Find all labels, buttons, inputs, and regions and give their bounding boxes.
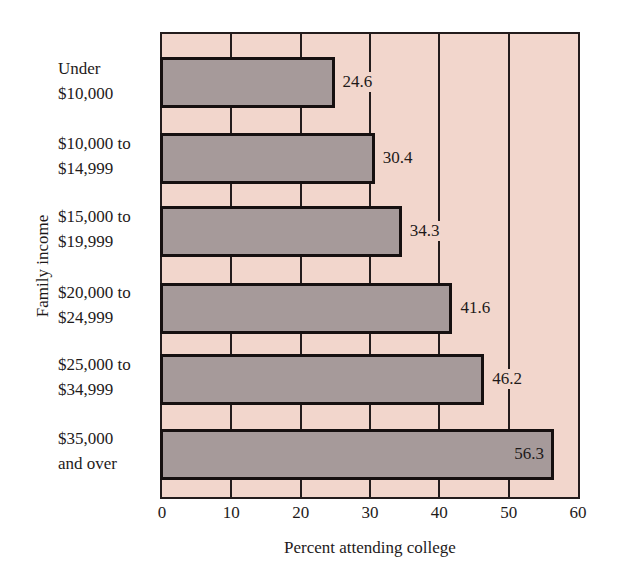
x-tick-label: 30 [350,503,390,523]
x-tick-label: 20 [281,503,321,523]
bar-value-label: 34.3 [408,221,442,241]
category-label: $20,000 to $24,999 [58,280,131,330]
category-label: Under $10,000 [58,56,113,106]
bar-value-label: 56.3 [512,444,546,464]
bar-value-label: 41.6 [458,298,492,318]
bar [160,354,484,405]
x-tick-label: 40 [419,503,459,523]
gridline [369,34,371,497]
x-tick-label: 0 [142,503,182,523]
y-axis-label: Family income [33,215,53,317]
category-label: $10,000 to $14,999 [58,131,131,181]
x-axis-label: Percent attending college [160,538,580,558]
bar-value-label: 30.4 [381,148,415,168]
gridline [438,34,440,497]
plot-area: 24.630.434.341.646.256.3 [160,32,580,499]
gridline [508,34,510,497]
bar [160,429,554,480]
category-label: $35,000 and over [58,426,117,476]
x-tick-label: 50 [489,503,529,523]
bar-value-label: 24.6 [341,72,375,92]
category-label: $15,000 to $19,999 [58,204,131,254]
category-label: $25,000 to $34,999 [58,352,131,402]
bar-value-label: 46.2 [490,369,524,389]
bar [160,57,335,108]
x-tick-label: 60 [558,503,598,523]
x-tick-label: 10 [211,503,251,523]
bar [160,283,452,334]
bar [160,133,375,184]
bar [160,206,402,257]
